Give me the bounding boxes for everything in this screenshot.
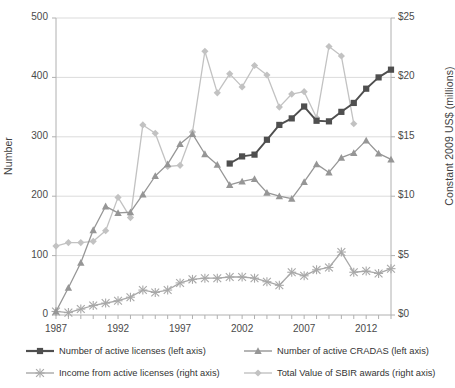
series-1: [227, 67, 394, 167]
data-point: [152, 130, 159, 137]
legend-label: Number of active CRADAS (left axis): [277, 345, 429, 357]
x-axis-tick-label: 1997: [160, 323, 200, 334]
data-point: [363, 86, 369, 92]
data-point: [213, 274, 222, 283]
legend-item-income-licenses[interactable]: Income from active licenses (right axis): [0, 367, 232, 379]
data-point: [350, 120, 357, 127]
data-point: [301, 103, 307, 109]
data-point: [313, 160, 320, 167]
data-point: [387, 264, 396, 273]
data-point: [313, 118, 319, 124]
legend-row: Income from active licenses (right axis)…: [0, 367, 455, 379]
y-axis-left-tick-label: 0: [14, 308, 48, 319]
data-point: [238, 272, 247, 281]
data-point: [200, 274, 209, 283]
data-point: [101, 299, 110, 308]
data-point: [188, 275, 197, 284]
data-point: [239, 153, 245, 159]
x-marker-icon: [26, 367, 54, 379]
x-axis-tick-label: 1987: [36, 323, 76, 334]
data-point: [114, 296, 123, 305]
y-axis-left-tick-label: 500: [14, 11, 48, 22]
data-point: [225, 272, 234, 281]
data-point: [89, 301, 98, 310]
data-point: [251, 152, 257, 158]
data-point: [251, 175, 258, 182]
data-point: [375, 74, 381, 80]
data-point: [151, 288, 160, 297]
diamond-marker-icon: [244, 367, 272, 379]
data-point: [301, 88, 308, 95]
data-point: [114, 194, 121, 201]
series-3: [52, 248, 396, 318]
legend-item-active-cradas[interactable]: Number of active CRADAS (left axis): [232, 345, 455, 357]
data-point: [289, 115, 295, 121]
data-point: [36, 369, 45, 378]
data-point: [362, 137, 369, 144]
data-point: [90, 226, 97, 233]
y-axis-right-tick-label: $20: [398, 70, 434, 81]
data-point: [276, 122, 282, 128]
data-point: [126, 293, 135, 302]
y-axis-right-tick-label: $10: [398, 189, 434, 200]
x-axis-tick-label: 1992: [98, 323, 138, 334]
data-point: [337, 248, 346, 257]
data-point: [139, 121, 146, 128]
data-point: [227, 160, 233, 166]
data-point: [164, 160, 171, 167]
data-point: [326, 118, 332, 124]
square-marker-icon: [26, 345, 54, 357]
data-point: [138, 286, 147, 295]
data-point: [65, 239, 72, 246]
data-point: [387, 156, 394, 163]
legend-item-sbir-awards[interactable]: Total Value of SBIR awards (right axis): [232, 367, 455, 379]
data-point: [64, 308, 73, 317]
series-4: [52, 43, 357, 250]
data-point: [176, 162, 183, 169]
data-point: [351, 100, 357, 106]
data-point: [324, 263, 333, 272]
data-point: [201, 150, 208, 157]
data-point: [362, 267, 371, 276]
y-axis-right-tick-label: $15: [398, 130, 434, 141]
chart-container: Number Constant 2009 US$ (millions) Numb…: [0, 0, 455, 388]
legend-row: Number of active licenses (left axis) Nu…: [0, 345, 455, 357]
data-point: [76, 305, 85, 314]
data-point: [338, 109, 344, 115]
data-point: [52, 242, 59, 249]
y-axis-right-tick-label: $0: [398, 308, 434, 319]
data-point: [287, 268, 296, 277]
data-point: [254, 369, 261, 376]
chart-legend: Number of active licenses (left axis) Nu…: [0, 345, 455, 379]
data-point: [77, 239, 84, 246]
y-axis-left-tick-label: 400: [14, 70, 48, 81]
x-axis-tick-label: 2002: [222, 323, 262, 334]
data-point: [374, 269, 383, 278]
data-point: [312, 265, 321, 274]
data-point: [300, 271, 309, 280]
legend-item-active-licenses[interactable]: Number of active licenses (left axis): [0, 345, 232, 357]
data-point: [139, 191, 146, 198]
data-point: [65, 284, 72, 291]
y-axis-left-tick-label: 100: [14, 249, 48, 260]
series-2: [52, 130, 394, 314]
data-point: [214, 89, 221, 96]
data-point: [102, 203, 109, 210]
y-axis-left-tick-label: 300: [14, 130, 48, 141]
x-axis-tick-label: 2007: [284, 323, 324, 334]
data-point: [349, 268, 358, 277]
data-point: [262, 277, 271, 286]
triangle-marker-icon: [244, 345, 272, 357]
data-point: [163, 286, 172, 295]
data-point: [37, 348, 43, 354]
legend-label: Number of active licenses (left axis): [59, 345, 206, 357]
legend-label: Income from active licenses (right axis): [59, 367, 220, 379]
data-point: [176, 278, 185, 287]
series-line: [230, 70, 391, 164]
y-axis-right-tick-label: $25: [398, 11, 434, 22]
data-point: [275, 281, 284, 290]
data-point: [250, 274, 259, 283]
data-point: [388, 67, 394, 73]
y-axis-left-tick-label: 200: [14, 189, 48, 200]
data-point: [264, 137, 270, 143]
